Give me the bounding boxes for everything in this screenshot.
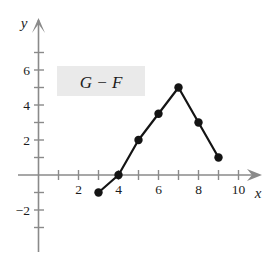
coordinate-plot: 2 4 6 8 10 −2 2 4 6 x y G − F bbox=[0, 0, 275, 259]
y-axis-label: y bbox=[19, 15, 28, 31]
data-point bbox=[194, 118, 202, 126]
x-axis-label: x bbox=[254, 185, 262, 201]
data-point bbox=[94, 188, 102, 196]
x-tick-label-2: 2 bbox=[75, 182, 82, 197]
x-tick-label-10: 10 bbox=[232, 182, 246, 197]
y-tick-label-6: 6 bbox=[23, 63, 30, 78]
x-tick-label-8: 8 bbox=[195, 182, 202, 197]
axes-group bbox=[18, 18, 262, 252]
data-point bbox=[134, 136, 142, 144]
y-tick-label-neg2: −2 bbox=[16, 203, 30, 218]
y-tick-label-4: 4 bbox=[23, 98, 30, 113]
data-point bbox=[174, 83, 182, 91]
y-tick-label-2: 2 bbox=[23, 133, 30, 148]
series-label: G − F bbox=[80, 73, 123, 92]
data-point bbox=[154, 110, 162, 118]
data-point bbox=[214, 153, 222, 161]
data-point bbox=[114, 171, 122, 179]
figure-container: 10. bbox=[0, 0, 275, 259]
x-tick-label-6: 6 bbox=[155, 182, 162, 197]
x-tick-label-4: 4 bbox=[115, 182, 122, 197]
